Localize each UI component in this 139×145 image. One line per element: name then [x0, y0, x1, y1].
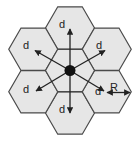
label-lower-right: d — [95, 85, 101, 97]
base-station-node — [65, 65, 76, 76]
label-upper-left: d — [23, 39, 29, 51]
label-radius: R — [110, 81, 118, 93]
label-bottom: d — [59, 103, 65, 115]
label-lower-left: d — [23, 83, 29, 95]
hex-cluster-diagram: d d d d d d R — [0, 0, 139, 145]
label-upper-right: d — [96, 39, 102, 51]
label-top: d — [59, 18, 65, 30]
